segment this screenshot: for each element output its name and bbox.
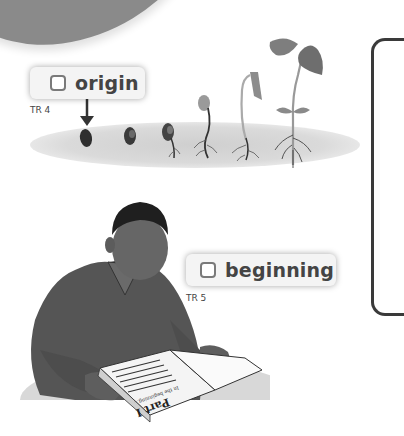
checkbox-origin[interactable] [50, 75, 66, 91]
vocab-word-beginning: beginning [225, 259, 334, 281]
arrow-down-icon [80, 99, 94, 126]
checkbox-beginning[interactable] [200, 262, 216, 278]
boy-reading-illustration: Part I In the beginning... [0, 190, 270, 436]
vocab-card-origin: origin [30, 67, 145, 99]
track-label-beginning: TR 5 [186, 293, 206, 303]
seed-stage-3 [162, 123, 180, 158]
seed-stage-1 [79, 128, 94, 148]
seed-stage-6 [270, 38, 323, 168]
vocab-word-origin: origin [75, 72, 139, 94]
seed-stage-4 [194, 95, 217, 158]
track-label-origin: TR 4 [30, 105, 50, 115]
seed-stage-5 [232, 72, 262, 161]
vocab-card-beginning: beginning [186, 254, 336, 286]
